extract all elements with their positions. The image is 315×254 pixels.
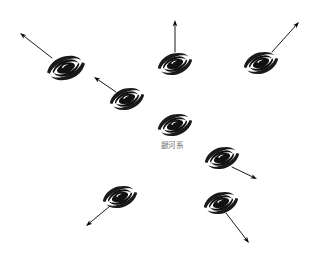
milky-way-label: 銀河系 (161, 140, 183, 150)
galaxy-labels-layer: 銀河系 (161, 140, 183, 150)
diagram-canvas: 銀河系 (0, 0, 315, 254)
diagram-background (0, 0, 315, 254)
expanding-universe-diagram: 銀河系 (0, 0, 315, 254)
